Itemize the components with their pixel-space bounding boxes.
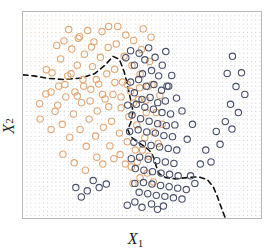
classification-scatter-figure: X1 X2 [0,0,271,252]
y-axis-label: X2 [0,111,135,141]
x-axis-label: X1 [0,230,271,249]
y-axis-label-subscript: 2 [3,118,15,124]
x-axis-label-subscript: 1 [138,237,144,249]
x-axis-label-main: X [128,230,138,247]
y-axis-label-main: X [0,124,18,134]
